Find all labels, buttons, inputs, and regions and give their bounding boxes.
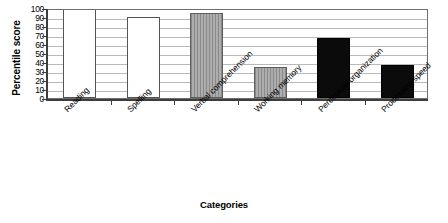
x-axis-tick-mark bbox=[174, 101, 175, 105]
y-axis-tick-mark bbox=[42, 81, 47, 82]
y-axis-tick-label: 40 bbox=[22, 59, 44, 68]
gridline bbox=[48, 46, 427, 47]
gridline bbox=[48, 28, 427, 29]
y-axis-tick-mark bbox=[42, 27, 47, 28]
y-axis-tick-label: 10 bbox=[22, 86, 44, 95]
y-axis-tick-mark bbox=[42, 18, 47, 19]
y-axis-tick-labels: 0102030405060708090100 bbox=[22, 9, 44, 99]
y-axis-tick-label: 0 bbox=[22, 95, 44, 104]
gridline bbox=[48, 82, 427, 83]
y-axis-tick-label: 90 bbox=[22, 14, 44, 23]
y-axis-tick-mark bbox=[42, 90, 47, 91]
gridline bbox=[48, 19, 427, 20]
y-axis-tick-mark bbox=[42, 63, 47, 64]
y-axis-tick-mark bbox=[42, 36, 47, 37]
y-axis-tick-label: 70 bbox=[22, 32, 44, 41]
x-axis-tick-mark bbox=[301, 101, 302, 105]
y-axis-tick-mark bbox=[42, 54, 47, 55]
y-axis-tick-mark bbox=[42, 72, 47, 73]
bar bbox=[63, 9, 96, 98]
gridline bbox=[48, 37, 427, 38]
gridline bbox=[48, 91, 427, 92]
y-axis-tick-mark bbox=[42, 99, 47, 100]
y-axis-tick-mark bbox=[42, 45, 47, 46]
y-axis-tick-label: 80 bbox=[22, 23, 44, 32]
y-axis-tick-label: 20 bbox=[22, 77, 44, 86]
x-axis-tick-mark bbox=[365, 101, 366, 105]
x-axis-tick-mark bbox=[238, 101, 239, 105]
bar-chart: Percentile score 0102030405060708090100 … bbox=[0, 0, 448, 223]
bar bbox=[127, 17, 160, 98]
gridline bbox=[48, 73, 427, 74]
y-axis-tick-label: 30 bbox=[22, 68, 44, 77]
x-axis-title: Categories bbox=[0, 199, 448, 210]
y-axis-tick-label: 100 bbox=[22, 5, 44, 14]
x-axis-tick-mark bbox=[111, 101, 112, 105]
y-axis-tick-label: 50 bbox=[22, 50, 44, 59]
y-axis-tick-mark bbox=[42, 9, 47, 10]
y-axis-tick-label: 60 bbox=[22, 41, 44, 50]
